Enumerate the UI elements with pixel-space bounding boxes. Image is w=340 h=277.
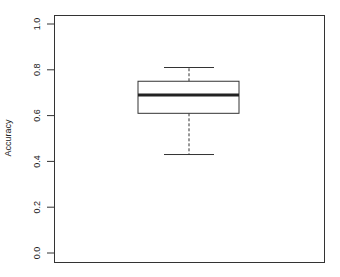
y-axis: 0.00.20.40.60.81.0 [32, 18, 54, 260]
box-plot: 0.00.20.40.60.81.0 Accuracy [0, 0, 340, 277]
y-tick-label: 0.6 [32, 109, 42, 122]
y-tick-label: 0.4 [32, 155, 42, 168]
y-tick-label: 0.8 [32, 64, 42, 77]
box-group [138, 68, 239, 155]
y-tick-label: 1.0 [32, 18, 42, 31]
iqr-box [138, 81, 239, 113]
y-axis-label: Accuracy [3, 119, 13, 157]
y-tick-label: 0.2 [32, 201, 42, 214]
y-tick-label: 0.0 [32, 247, 42, 260]
